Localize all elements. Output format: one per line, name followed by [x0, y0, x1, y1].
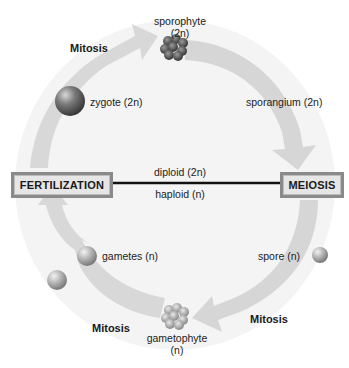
haploid-label: haploid (n) [140, 188, 220, 200]
gamete-icon-2 [47, 270, 67, 290]
spore-label: spore (n) [258, 250, 300, 262]
gametes-label: gametes (n) [102, 250, 158, 262]
fertilization-box: FERTILIZATION [11, 172, 113, 198]
diploid-label: diploid (2n) [140, 166, 220, 178]
sporangium-label: sporangium (2n) [246, 96, 322, 108]
zygote-icon [55, 86, 85, 116]
mitosis-top-label: Mitosis [70, 42, 108, 54]
spore-icon [312, 247, 328, 263]
meiosis-box: MEIOSIS [280, 172, 344, 198]
sporophyte-label: sporophyte (2n) [150, 15, 210, 39]
gamete-icon-1 [77, 246, 97, 266]
life-cycle-diagram: sporophyte (2n) Mitosis zygote (2n) spor… [0, 0, 349, 368]
mitosis-bottom-right-label: Mitosis [250, 313, 288, 325]
mitosis-bottom-left-label: Mitosis [92, 322, 130, 334]
gametophyte-label: gametophyte (n) [140, 332, 214, 356]
zygote-label: zygote (2n) [90, 96, 143, 108]
